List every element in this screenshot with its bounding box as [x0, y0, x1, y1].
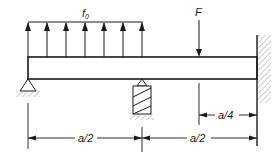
point-force: F — [195, 6, 203, 57]
force-arrow-head — [196, 49, 202, 57]
wall-hatch — [257, 35, 271, 103]
ground-hatch-left — [16, 91, 40, 97]
beam — [28, 57, 257, 79]
dimension-label-force: a/4 — [218, 109, 233, 121]
ground-hatch-middle — [130, 114, 154, 120]
point-force-label: F — [195, 6, 203, 18]
beam-diagram: f0 F — [0, 0, 279, 156]
distributed-load-label: f0 — [82, 7, 89, 20]
left-pin-support — [16, 79, 40, 97]
arrow-heads — [25, 22, 145, 31]
right-fixed-wall — [257, 35, 271, 146]
distributed-load: f0 — [25, 7, 145, 57]
dimension-label-left: a/2 — [78, 132, 93, 144]
dimension-label-right: a/2 — [190, 132, 205, 144]
middle-spring-support — [130, 79, 154, 120]
